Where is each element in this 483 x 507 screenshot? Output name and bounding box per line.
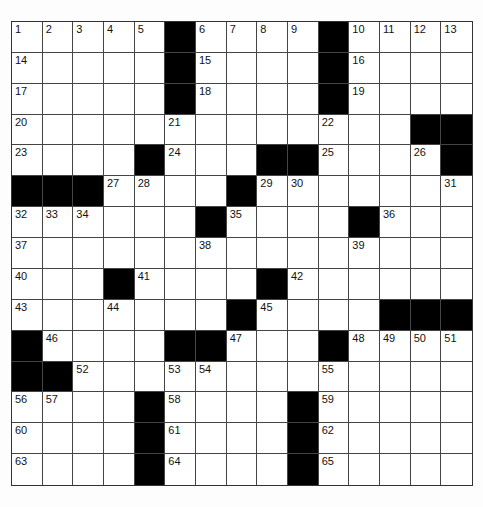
answer-cell[interactable] (196, 392, 227, 423)
answer-cell[interactable]: 3 (73, 22, 104, 53)
answer-cell[interactable] (288, 362, 319, 393)
answer-cell[interactable]: 20 (12, 115, 43, 146)
answer-cell[interactable] (349, 269, 380, 300)
answer-cell[interactable]: 44 (104, 300, 135, 331)
answer-cell[interactable] (227, 145, 258, 176)
answer-cell[interactable] (411, 362, 442, 393)
answer-cell[interactable] (104, 423, 135, 454)
answer-cell[interactable]: 30 (288, 176, 319, 207)
answer-cell[interactable] (104, 362, 135, 393)
answer-cell[interactable]: 28 (135, 176, 166, 207)
answer-cell[interactable] (349, 454, 380, 485)
answer-cell[interactable] (73, 145, 104, 176)
answer-cell[interactable]: 43 (12, 300, 43, 331)
answer-cell[interactable] (288, 115, 319, 146)
answer-cell[interactable] (43, 300, 74, 331)
answer-cell[interactable] (165, 207, 196, 238)
answer-cell[interactable] (319, 176, 350, 207)
answer-cell[interactable] (43, 84, 74, 115)
answer-cell[interactable] (73, 423, 104, 454)
answer-cell[interactable] (411, 269, 442, 300)
answer-cell[interactable]: 47 (227, 331, 258, 362)
answer-cell[interactable]: 54 (196, 362, 227, 393)
answer-cell[interactable] (135, 115, 166, 146)
answer-cell[interactable] (441, 392, 472, 423)
answer-cell[interactable] (196, 423, 227, 454)
answer-cell[interactable]: 48 (349, 331, 380, 362)
answer-cell[interactable]: 35 (227, 207, 258, 238)
answer-cell[interactable] (104, 84, 135, 115)
answer-cell[interactable] (104, 53, 135, 84)
answer-cell[interactable]: 27 (104, 176, 135, 207)
answer-cell[interactable] (73, 269, 104, 300)
answer-cell[interactable]: 6 (196, 22, 227, 53)
answer-cell[interactable] (227, 84, 258, 115)
answer-cell[interactable] (43, 269, 74, 300)
answer-cell[interactable] (441, 362, 472, 393)
answer-cell[interactable] (43, 115, 74, 146)
answer-cell[interactable] (441, 454, 472, 485)
answer-cell[interactable]: 41 (135, 269, 166, 300)
answer-cell[interactable] (411, 53, 442, 84)
answer-cell[interactable] (441, 238, 472, 269)
answer-cell[interactable] (73, 53, 104, 84)
answer-cell[interactable]: 36 (380, 207, 411, 238)
answer-cell[interactable]: 51 (441, 331, 472, 362)
answer-cell[interactable] (135, 300, 166, 331)
answer-cell[interactable] (227, 423, 258, 454)
answer-cell[interactable] (257, 238, 288, 269)
answer-cell[interactable]: 5 (135, 22, 166, 53)
answer-cell[interactable] (380, 238, 411, 269)
answer-cell[interactable] (73, 238, 104, 269)
answer-cell[interactable] (411, 454, 442, 485)
answer-cell[interactable] (441, 53, 472, 84)
answer-cell[interactable] (165, 269, 196, 300)
answer-cell[interactable]: 53 (165, 362, 196, 393)
answer-cell[interactable] (227, 269, 258, 300)
answer-cell[interactable]: 21 (165, 115, 196, 146)
answer-cell[interactable] (43, 423, 74, 454)
answer-cell[interactable] (349, 115, 380, 146)
answer-cell[interactable] (288, 53, 319, 84)
answer-cell[interactable] (380, 115, 411, 146)
answer-cell[interactable] (73, 84, 104, 115)
answer-cell[interactable] (43, 145, 74, 176)
answer-cell[interactable] (257, 392, 288, 423)
answer-cell[interactable]: 40 (12, 269, 43, 300)
answer-cell[interactable] (135, 238, 166, 269)
answer-cell[interactable]: 1 (12, 22, 43, 53)
answer-cell[interactable] (227, 454, 258, 485)
answer-cell[interactable]: 38 (196, 238, 227, 269)
answer-cell[interactable] (380, 362, 411, 393)
answer-cell[interactable]: 11 (380, 22, 411, 53)
answer-cell[interactable]: 32 (12, 207, 43, 238)
answer-cell[interactable] (227, 53, 258, 84)
answer-cell[interactable] (104, 392, 135, 423)
answer-cell[interactable]: 10 (349, 22, 380, 53)
answer-cell[interactable]: 15 (196, 53, 227, 84)
answer-cell[interactable] (227, 362, 258, 393)
answer-cell[interactable] (257, 362, 288, 393)
answer-cell[interactable] (43, 454, 74, 485)
answer-cell[interactable]: 62 (319, 423, 350, 454)
answer-cell[interactable] (288, 238, 319, 269)
answer-cell[interactable] (73, 300, 104, 331)
answer-cell[interactable] (73, 392, 104, 423)
answer-cell[interactable] (196, 176, 227, 207)
answer-cell[interactable]: 46 (43, 331, 74, 362)
answer-cell[interactable] (380, 84, 411, 115)
answer-cell[interactable]: 25 (319, 145, 350, 176)
answer-cell[interactable]: 33 (43, 207, 74, 238)
answer-cell[interactable] (257, 454, 288, 485)
answer-cell[interactable]: 17 (12, 84, 43, 115)
answer-cell[interactable] (411, 84, 442, 115)
answer-cell[interactable]: 63 (12, 454, 43, 485)
answer-cell[interactable] (227, 238, 258, 269)
answer-cell[interactable] (411, 238, 442, 269)
answer-cell[interactable] (227, 115, 258, 146)
answer-cell[interactable]: 29 (257, 176, 288, 207)
answer-cell[interactable]: 65 (319, 454, 350, 485)
answer-cell[interactable] (380, 145, 411, 176)
answer-cell[interactable]: 4 (104, 22, 135, 53)
answer-cell[interactable]: 24 (165, 145, 196, 176)
